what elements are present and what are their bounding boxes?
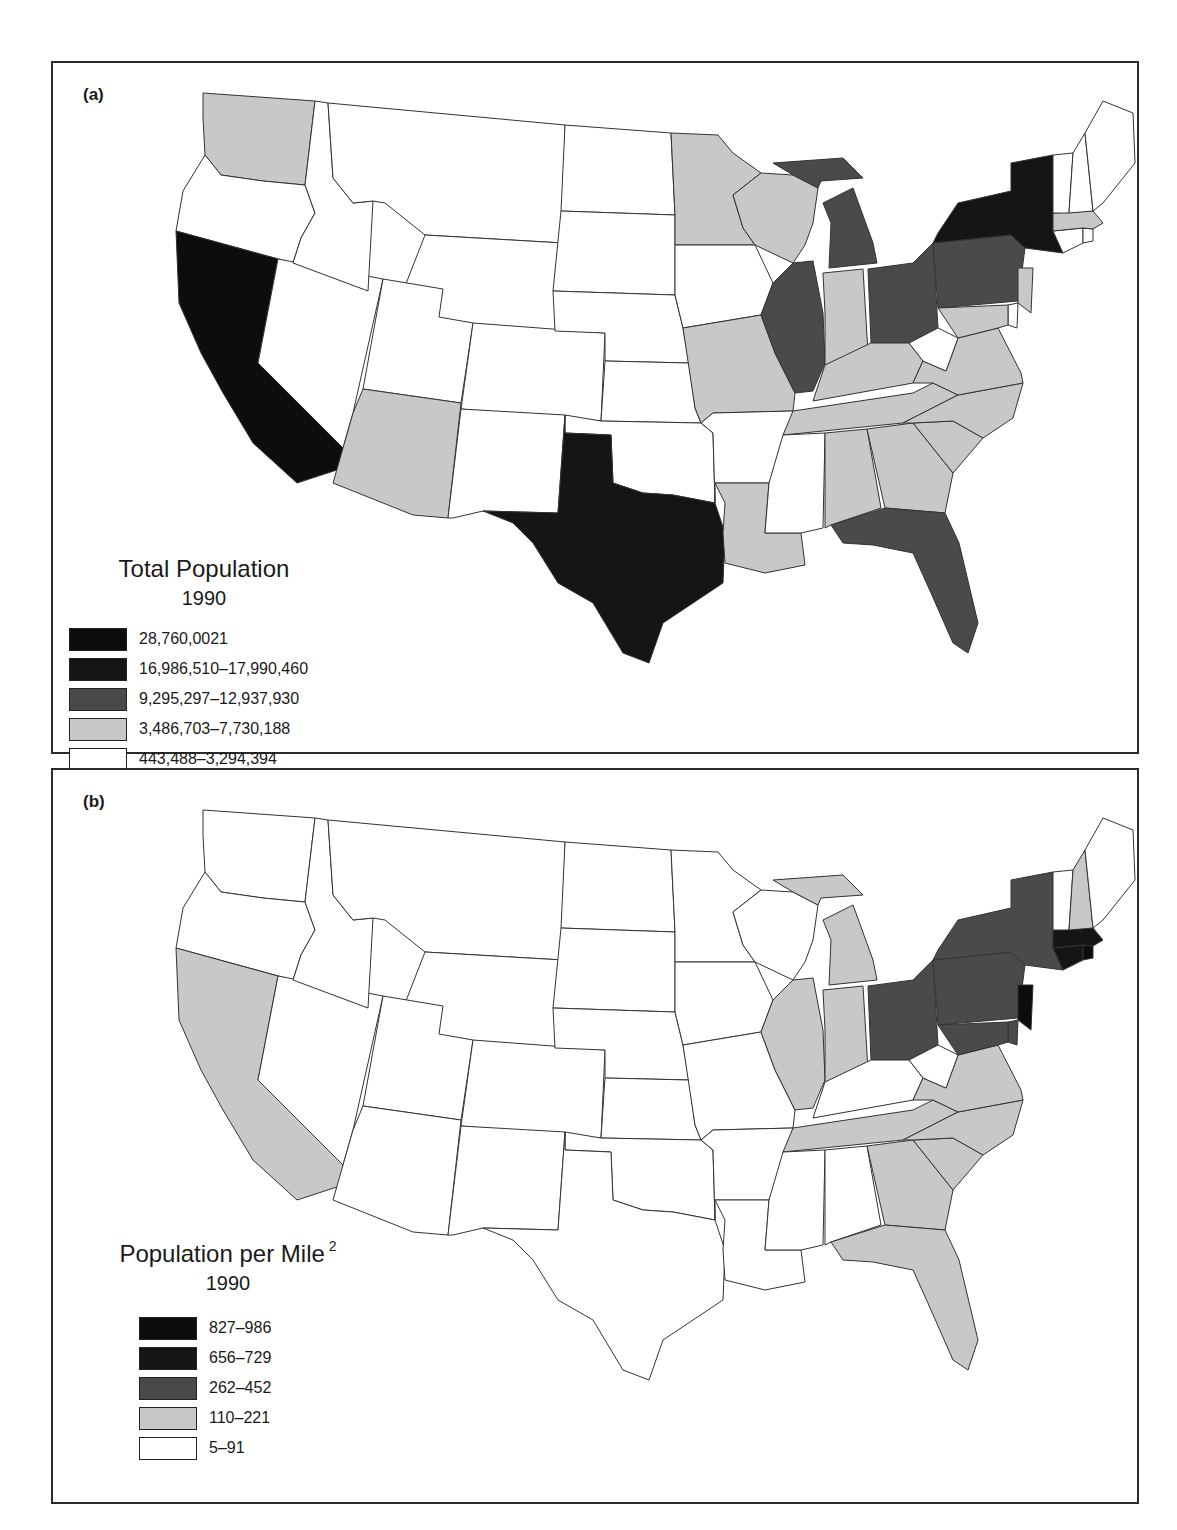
state-nj (1018, 268, 1033, 313)
state-wa (203, 93, 315, 185)
legend-label: 827–986 (209, 1319, 271, 1337)
legend-title: Population per Mile (119, 1240, 324, 1267)
legend-label: 262–452 (209, 1379, 271, 1397)
legend-swatch (139, 1377, 197, 1400)
legend-label: 16,986,510–17,990,460 (139, 660, 308, 678)
state-ma (1053, 211, 1103, 231)
state-me (1085, 818, 1135, 928)
state-de (1008, 303, 1018, 328)
legend-swatch (69, 688, 127, 711)
state-nd (561, 125, 675, 215)
legend-swatch (139, 1407, 197, 1430)
legend-swatch (69, 718, 127, 741)
legend-swatch (69, 658, 127, 681)
state-nd (561, 842, 675, 932)
state-fl (831, 1225, 978, 1370)
legend-year: 1990 (69, 587, 339, 610)
legend-item: 827–986 (139, 1313, 373, 1343)
state-ri (1083, 945, 1093, 960)
legend-label: 28,760,0021 (139, 630, 228, 648)
legend-item: 28,760,0021 (69, 624, 339, 654)
legend-swatch (69, 628, 127, 651)
panel-population-density: (b) Population per Mile2 1990 827–986 65… (51, 768, 1139, 1504)
legend-title-superscript: 2 (329, 1238, 337, 1254)
state-fl (831, 508, 978, 653)
state-nj (1018, 985, 1033, 1030)
state-oh (868, 960, 938, 1060)
legend-label: 5–91 (209, 1439, 245, 1457)
legend-item: 656–729 (139, 1343, 373, 1373)
legend-title: Total Population (69, 555, 339, 583)
state-me (1085, 101, 1135, 211)
state-ma (1053, 928, 1103, 948)
legend-item: 110–221 (139, 1403, 373, 1433)
legend-swatch (139, 1437, 197, 1460)
legend-item: 16,986,510–17,990,460 (69, 654, 339, 684)
legend-item: 262–452 (139, 1373, 373, 1403)
legend-label: 656–729 (209, 1349, 271, 1367)
legend-item: 9,295,297–12,937,930 (69, 684, 339, 714)
legend-swatch (139, 1347, 197, 1370)
legend-label: 3,486,703–7,730,188 (139, 720, 290, 738)
state-oh (868, 243, 938, 343)
state-sd (553, 211, 675, 295)
legend-item: 5–91 (139, 1433, 373, 1463)
state-pa (933, 235, 1025, 308)
state-pa (933, 952, 1025, 1025)
state-ri (1083, 228, 1093, 243)
state-co (461, 323, 605, 421)
legend-swatch (139, 1317, 197, 1340)
legend-population-density: Population per Mile2 1990 827–986 656–72… (83, 1240, 373, 1463)
state-wa (203, 810, 315, 902)
legend-year: 1990 (83, 1272, 373, 1295)
state-ks (601, 361, 701, 423)
state-de (1008, 1020, 1018, 1045)
legend-label: 9,295,297–12,937,930 (139, 690, 299, 708)
legend-label: 110–221 (209, 1409, 270, 1427)
state-nm (448, 409, 565, 518)
state-sd (553, 928, 675, 1012)
legend-item: 3,486,703–7,730,188 (69, 714, 339, 744)
legend-label: 443,488–3,294,394 (139, 750, 277, 768)
panel-total-population: (a) Total Population 1990 28,760,0021 16… (51, 61, 1139, 754)
state-co (461, 1040, 605, 1138)
legend-total-population: Total Population 1990 28,760,0021 16,986… (69, 555, 339, 774)
state-nm (448, 1126, 565, 1235)
state-ks (601, 1078, 701, 1140)
